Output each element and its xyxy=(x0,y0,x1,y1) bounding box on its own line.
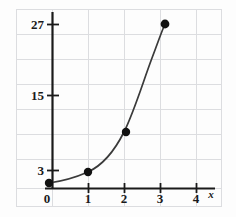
figure-background xyxy=(0,0,236,217)
x-tick-label-4: 4 xyxy=(193,191,200,206)
x-tick-label-0: 0 xyxy=(44,191,51,206)
plot-area: 27 15 3 0 1 2 3 4 x xyxy=(0,0,236,217)
data-point-2 xyxy=(122,128,130,136)
data-point-1 xyxy=(84,168,92,176)
x-tick-label-1: 1 xyxy=(85,191,92,206)
y-tick-label-27: 27 xyxy=(31,17,45,32)
x-tick-label-2: 2 xyxy=(121,191,128,206)
y-tick-label-3: 3 xyxy=(38,163,45,178)
x-tick-label-3: 3 xyxy=(157,191,164,206)
x-axis-variable-label: x xyxy=(207,188,214,200)
y-tick-label-15: 15 xyxy=(31,88,45,103)
data-point-0 xyxy=(45,179,53,187)
exponential-graph-figure: 27 15 3 0 1 2 3 4 x xyxy=(0,0,236,217)
data-point-3 xyxy=(161,20,170,29)
